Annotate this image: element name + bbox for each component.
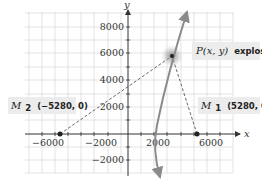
tick-label-x: −2000 — [85, 137, 117, 148]
m1-label-name: M — [200, 100, 212, 111]
m1-label-coords: (5280, 0) — [227, 101, 262, 111]
x-axis-label: x — [244, 128, 250, 139]
grid — [25, 12, 233, 173]
tick-label-y: 2000 — [100, 101, 124, 112]
tick-label-y: 8000 — [100, 21, 124, 32]
p-label-extra: explosion — [234, 46, 262, 56]
tick-label-x: 2000 — [146, 137, 170, 148]
m1-label-sub: 1 — [215, 103, 221, 113]
tick-label-x: 6000 — [199, 137, 223, 148]
tick-label-y: 4000 — [100, 74, 124, 85]
tick-label-x: −6000 — [32, 137, 64, 148]
curve-arrow-bottom — [158, 170, 160, 177]
point-p — [170, 54, 174, 58]
segment-m1-p — [172, 56, 197, 134]
point-m1 — [195, 132, 200, 137]
hyperbola-curve — [155, 12, 187, 177]
m2-label-name: M — [10, 100, 22, 111]
m2-label-sub: 2 — [25, 103, 31, 113]
segment-m2-p — [60, 56, 172, 134]
y-axis-label: y — [123, 0, 130, 10]
point-m2 — [58, 132, 63, 137]
p-label-name: P(x, y) — [195, 45, 228, 56]
tick-label-y: 6000 — [100, 47, 124, 58]
tick-label-y: −2000 — [92, 154, 124, 165]
hyperbola-diagram: −6000 −2000 2000 6000 8000 6000 4000 200… — [0, 0, 262, 181]
m2-label-coords: (−5280, 0) — [37, 101, 88, 111]
